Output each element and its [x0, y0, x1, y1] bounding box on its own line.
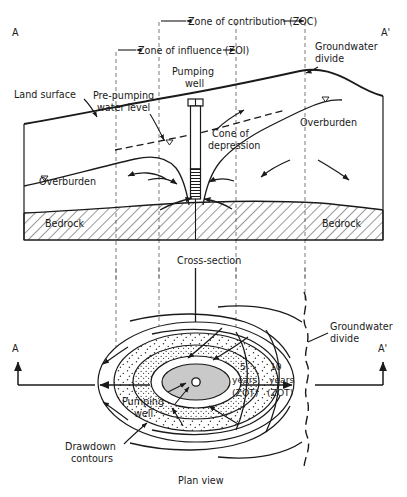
land-surface-label: Land surface	[14, 89, 76, 100]
pumping-well-label-line1-xs: Pumping	[172, 66, 214, 77]
zot-5-year-unit: years	[232, 374, 257, 385]
groundwater-divide-label-line1-xs: Groundwater	[315, 41, 378, 52]
groundwater-divide-label-line2-xs: divide	[315, 53, 344, 64]
groundwater-divide-label-line1-plan: Groundwater	[330, 321, 393, 332]
cone-of-depression-leader	[216, 110, 244, 130]
zot-10-year-code: (ZOT)	[267, 387, 293, 398]
pre-pumping-label-line1: Pre-pumping	[93, 90, 154, 101]
well-screen	[191, 169, 201, 199]
bedrock-label-left: Bedrock	[45, 218, 84, 229]
pre-pumping-label-line2: water level	[97, 102, 150, 113]
zoc-label: Zone of contribution (ZOC)	[188, 16, 317, 27]
pumping-well-label-line2-xs: well	[185, 78, 204, 89]
flow-arrow-to-well-right-upper	[209, 179, 234, 182]
water-table-symbol-mid	[166, 140, 173, 145]
section-marker-a-prime-plan: A'	[378, 343, 387, 354]
cross-section-caption: Cross-section	[177, 255, 241, 266]
cone-of-depression-label-line1: Cone of	[212, 128, 249, 139]
zoc-dimension: Zone of contribution (ZOC)	[161, 16, 317, 27]
groundwater-divide-plan	[304, 292, 309, 468]
section-marker-a-top: A	[12, 27, 19, 38]
pumping-well-label-line1-plan: Pumping	[122, 396, 164, 407]
cone-of-depression-label-line2: depression	[208, 140, 260, 151]
pumping-well-symbol-plan	[192, 378, 200, 386]
drawdown-contour-ellipses	[98, 322, 294, 442]
drawdown-contours-label-line2: contours	[71, 453, 113, 464]
well-casing	[191, 106, 201, 169]
overburden-label-right: Overburden	[300, 117, 357, 128]
overburden-label-left: Overburden	[39, 176, 96, 187]
flow-arrow-right-inbound	[261, 160, 290, 177]
groundwater-divide-leader-plan	[308, 333, 328, 342]
drawdown-contours-label-line1: Drawdown	[65, 441, 116, 452]
section-marker-a-plan: A	[12, 343, 19, 354]
pre-pumping-leader	[150, 114, 164, 140]
zot-5-year-code: (ZOT)	[232, 387, 258, 398]
zot-5-year-value: 5	[240, 361, 246, 372]
pumping-well-label-line2-plan: well	[134, 408, 153, 419]
cross-section-panel: A A' Zone of contribution (ZOC) Zone of …	[12, 16, 390, 281]
zot-10-line-upper	[218, 306, 302, 322]
flow-arrow-right-outbound	[318, 160, 349, 180]
zot-10-year-value: 10	[270, 361, 282, 372]
zone-boundary-lines	[116, 22, 305, 280]
zoi-label: Zone of influence (ZOI)	[138, 45, 249, 56]
zoi-dimension: Zone of influence (ZOI)	[118, 45, 249, 56]
bedrock-label-right: Bedrock	[322, 218, 361, 229]
groundwater-divide-label-line2-plan: divide	[330, 333, 359, 344]
section-marker-a-prime-top: A'	[381, 27, 390, 38]
plan-view-panel: 5 years (ZOT) 10 years (ZOT) A A' Pumpin…	[12, 268, 393, 486]
flow-arrow-to-well-left-upper	[148, 178, 177, 184]
plan-view-caption: Plan view	[178, 475, 224, 486]
zot-10-line-lower	[218, 442, 302, 458]
water-table-symbols	[41, 97, 329, 181]
hydrogeology-capture-zone-diagram: A A' Zone of contribution (ZOC) Zone of …	[0, 0, 407, 497]
zot-10-year-unit: years	[269, 374, 294, 385]
land-surface-leader	[84, 99, 97, 117]
